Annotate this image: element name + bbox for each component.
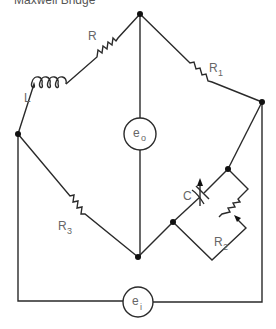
label-r2: R (214, 235, 223, 249)
node-right (259, 99, 265, 105)
resistor-r (66, 14, 140, 84)
svg-text:1: 1 (218, 68, 223, 78)
bridge-circuit: e o e i R L R 1 R 3 R (0, 0, 276, 329)
svg-text:e: e (132, 294, 139, 308)
label-r1: R (209, 61, 218, 75)
node-inner-left (170, 219, 176, 225)
svg-text:e: e (133, 126, 140, 140)
variable-capacitor-c (173, 169, 228, 222)
resistor-r1 (140, 14, 262, 102)
node-bottom (135, 254, 141, 260)
node-top (137, 11, 143, 17)
svg-text:i: i (140, 302, 142, 312)
label-r3: R (58, 219, 67, 233)
node-inner-top (225, 166, 231, 172)
svg-text:2: 2 (223, 242, 228, 252)
svg-text:o: o (141, 133, 146, 143)
svg-text:3: 3 (67, 226, 72, 236)
detector-eo: e o (124, 118, 156, 150)
potentiometer-r2 (173, 169, 248, 260)
label-c: C (183, 189, 192, 203)
inductor-l (18, 77, 66, 134)
source-ei: e i (123, 287, 153, 317)
label-l: L (24, 91, 31, 105)
resistor-r3 (18, 134, 138, 257)
label-r: R (88, 29, 97, 43)
node-left (15, 131, 21, 137)
